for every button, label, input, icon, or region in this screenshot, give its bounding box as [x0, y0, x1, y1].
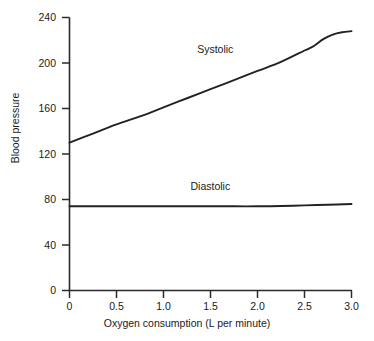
y-tick-label: 160: [26, 103, 56, 114]
x-tick-label: 1.5: [194, 301, 228, 312]
y-axis-ticks: [62, 18, 70, 291]
y-axis-title-wrapper: Blood pressure: [0, 0, 24, 290]
plot-canvas: [0, 0, 374, 341]
series-label-diastolic: Diastolic: [191, 180, 231, 192]
x-tick-label: 2.5: [288, 301, 322, 312]
x-tick-label: 1.0: [147, 301, 181, 312]
y-tick-label: 0: [26, 285, 56, 296]
y-tick-label: 40: [26, 240, 56, 251]
chart-figure: 0 40 80 120 160 200 240 0 0.5 1.0 1.5 2.…: [0, 0, 374, 341]
x-axis-ticks: [70, 291, 352, 299]
series-line-diastolic: [70, 204, 352, 206]
x-tick-label: 2.0: [241, 301, 275, 312]
x-axis-title: Oxygen consumption (L per minute): [0, 317, 374, 329]
y-tick-label: 80: [26, 194, 56, 205]
y-tick-label: 120: [26, 149, 56, 160]
x-tick-label: 0: [53, 301, 87, 312]
y-tick-label: 240: [26, 12, 56, 23]
series-label-systolic: Systolic: [197, 43, 233, 55]
y-axis-title: Blood pressure: [9, 83, 21, 173]
x-tick-label: 3.0: [335, 301, 369, 312]
x-tick-label: 0.5: [100, 301, 134, 312]
y-tick-label: 200: [26, 58, 56, 69]
